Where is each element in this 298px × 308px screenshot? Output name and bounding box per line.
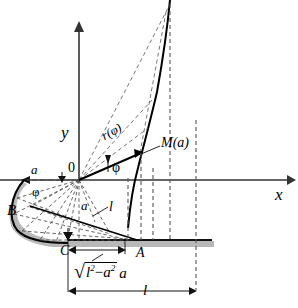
sqrt-exp-a: 2 bbox=[111, 263, 116, 273]
leader-line-sqrt bbox=[92, 254, 103, 261]
dim-l-arrow-left-icon bbox=[68, 287, 76, 295]
diagram-canvas bbox=[0, 0, 298, 308]
l-dimension-label: l bbox=[143, 283, 147, 298]
phi-left-label: φ bbox=[32, 185, 40, 198]
point-A-label: A bbox=[136, 246, 145, 260]
sqrt-radical-icon: √ bbox=[74, 262, 85, 280]
tractrix-curve bbox=[128, 0, 170, 228]
sqrt-base-a: a bbox=[103, 264, 111, 280]
x-axis-arrow-icon bbox=[287, 175, 296, 185]
tractrix-diagram: y 0 x r(φ) M(a) φ φ a a l B C A √ l2−a2 … bbox=[0, 0, 298, 308]
phi-angle-label: φ bbox=[112, 161, 120, 175]
a-top-label: a bbox=[31, 163, 38, 176]
phi-angle-arrow-icon bbox=[105, 155, 111, 164]
sqrt-minus: − bbox=[95, 264, 103, 280]
x-axis-label: x bbox=[275, 186, 283, 203]
sqrt-expression: √ l2−a2 a bbox=[74, 262, 127, 282]
point-B-label: B bbox=[7, 203, 16, 218]
y-axis-label: y bbox=[61, 124, 69, 141]
a-mid-label: a bbox=[81, 199, 88, 212]
dashed-upper-construction bbox=[79, 8, 168, 180]
y-axis-arrow-icon bbox=[74, 21, 84, 32]
l-mid-label: l bbox=[109, 200, 113, 214]
point-C-label: C bbox=[60, 244, 69, 258]
origin-label: 0 bbox=[68, 161, 75, 175]
trailing-a-label: a bbox=[117, 262, 127, 282]
point-M-label: M(a) bbox=[161, 136, 189, 150]
sqrt-radicand: l2−a2 bbox=[85, 262, 117, 280]
